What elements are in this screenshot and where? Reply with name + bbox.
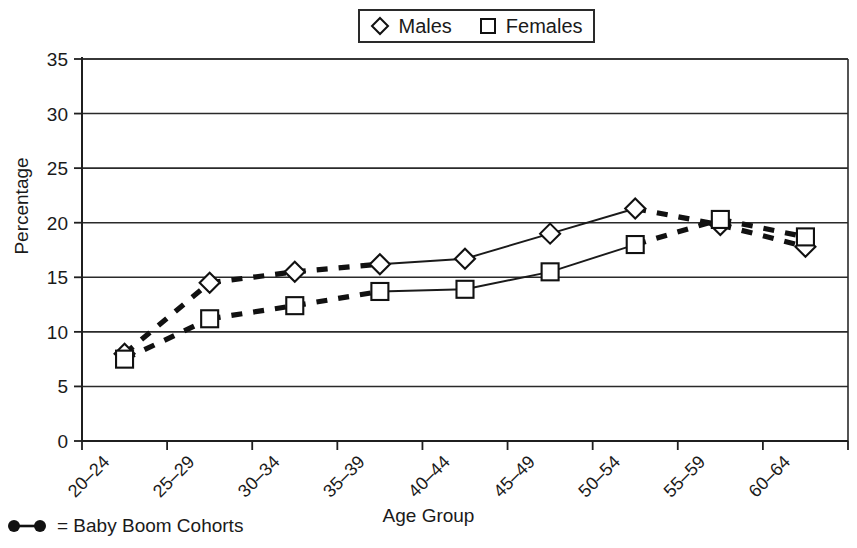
y-axis-title-text: Percentage [11,157,32,254]
data-point-males-30–34 [285,262,305,282]
line-chart: 05101520253035 20–2425–2930–3435–3940–44… [0,0,857,548]
legend-item-males: Males [370,16,451,36]
chart-page: 05101520253035 20–2425–2930–3435–3940–44… [0,0,857,548]
x-axis-title-text: Age Group [383,505,475,526]
series-markers [115,199,816,368]
y-tick-label-5: 5 [57,376,68,397]
y-axis-title: Percentage [11,146,33,266]
x-tick-label-2: 30–34 [234,452,284,502]
x-axis-ticks [82,441,848,450]
data-point-males-25–29 [200,273,220,293]
diamond-marker-icon [370,16,390,36]
y-tick-label-25: 25 [47,158,68,179]
data-point-females-30–34 [286,297,303,314]
x-tick-label-0: 20–24 [64,452,114,502]
data-point-females-40–44 [457,281,474,298]
series-males-segment-3 [380,259,465,264]
series-females-segment-4 [465,272,550,289]
data-point-females-20–24 [116,351,133,368]
data-point-females-25–29 [201,310,218,327]
legend-item-females: Females [478,16,583,36]
series-females-segment-1 [210,306,295,319]
series-males-segment-2 [295,264,380,272]
x-axis-tick-labels: 20–2425–2930–3435–3940–4445–4950–5455–59… [64,452,794,502]
square-marker-icon [478,16,498,36]
series-females-segment-0 [125,319,210,359]
x-tick-label-5: 45–49 [489,452,539,502]
series-females-segment-5 [550,245,635,272]
data-point-females-50–54 [627,236,644,253]
x-tick-label-7: 55–59 [660,452,710,502]
y-tick-label-30: 30 [47,104,68,125]
series-males-segment-0 [125,283,210,354]
y-tick-label-15: 15 [47,267,68,288]
legend-label-males: Males [398,16,451,36]
x-tick-label-6: 50–54 [575,452,625,502]
data-point-females-60–64 [797,228,814,245]
x-tick-label-4: 40–44 [404,452,454,502]
series-females-segment-2 [295,291,380,305]
data-point-males-50–54 [625,199,645,219]
series-males-segment-4 [465,234,550,259]
legend-label-females: Females [506,16,583,36]
chart-legend: Males Females [358,9,595,43]
data-point-males-40–44 [455,249,475,269]
y-axis-ticks [74,59,82,441]
x-tick-label-8: 60–64 [745,452,795,502]
data-point-females-55–59 [712,211,729,228]
y-tick-label-20: 20 [47,213,68,234]
x-tick-label-1: 25–29 [149,452,199,502]
footnote-text: = Baby Boom Cohorts [57,516,243,535]
y-tick-label-35: 35 [47,49,68,70]
data-point-males-45–49 [540,224,560,244]
data-point-females-45–49 [542,263,559,280]
chart-footnote: = Baby Boom Cohorts [6,516,243,535]
y-tick-label-0: 0 [57,431,68,452]
series-males-segment-5 [550,209,635,234]
data-point-males-35–39 [370,254,390,274]
x-tick-label-3: 35–39 [319,452,369,502]
data-point-females-35–39 [371,283,388,300]
y-tick-label-10: 10 [47,322,68,343]
y-axis-tick-labels: 05101520253035 [47,49,68,452]
series-females-segment-3 [380,289,465,291]
baby-boom-symbol-icon [6,517,50,535]
